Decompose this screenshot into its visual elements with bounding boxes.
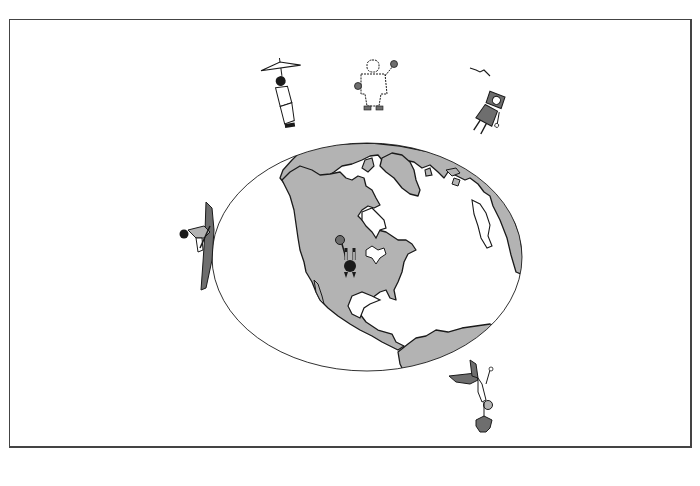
globe-illustration: [0, 0, 700, 486]
bird-icon: [470, 68, 490, 76]
globe-group: [212, 143, 523, 392]
snowsuit-person-figure: [355, 60, 398, 110]
surfboard-person-figure: [180, 202, 215, 290]
hat-icon: [476, 416, 492, 432]
land-british-isles: [452, 178, 460, 186]
hanging-person-figure: [449, 360, 493, 432]
umbrella-person-figure: [260, 55, 309, 130]
umbrella-icon: [260, 59, 300, 71]
hat-person-figure: [470, 89, 512, 139]
